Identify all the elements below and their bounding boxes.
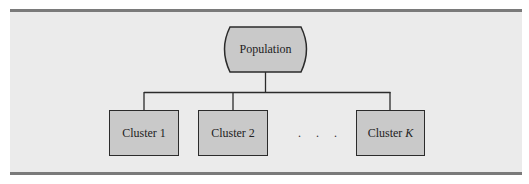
ellipsis: . . . bbox=[298, 126, 343, 141]
cluster-2-node: Cluster 2 bbox=[198, 110, 268, 156]
cluster-1-label: Cluster 1 bbox=[122, 127, 166, 139]
cluster-2-label: Cluster 2 bbox=[211, 127, 255, 139]
cluster-k-label-text: Cluster bbox=[368, 126, 406, 140]
connector-lines bbox=[0, 0, 529, 184]
cluster-1-node: Cluster 1 bbox=[109, 110, 179, 156]
population-label: Population bbox=[221, 43, 310, 55]
cluster-k-node: Cluster K bbox=[356, 110, 425, 156]
cluster-k-label-italic: K bbox=[405, 126, 413, 140]
cluster-k-label: Cluster K bbox=[368, 127, 414, 139]
